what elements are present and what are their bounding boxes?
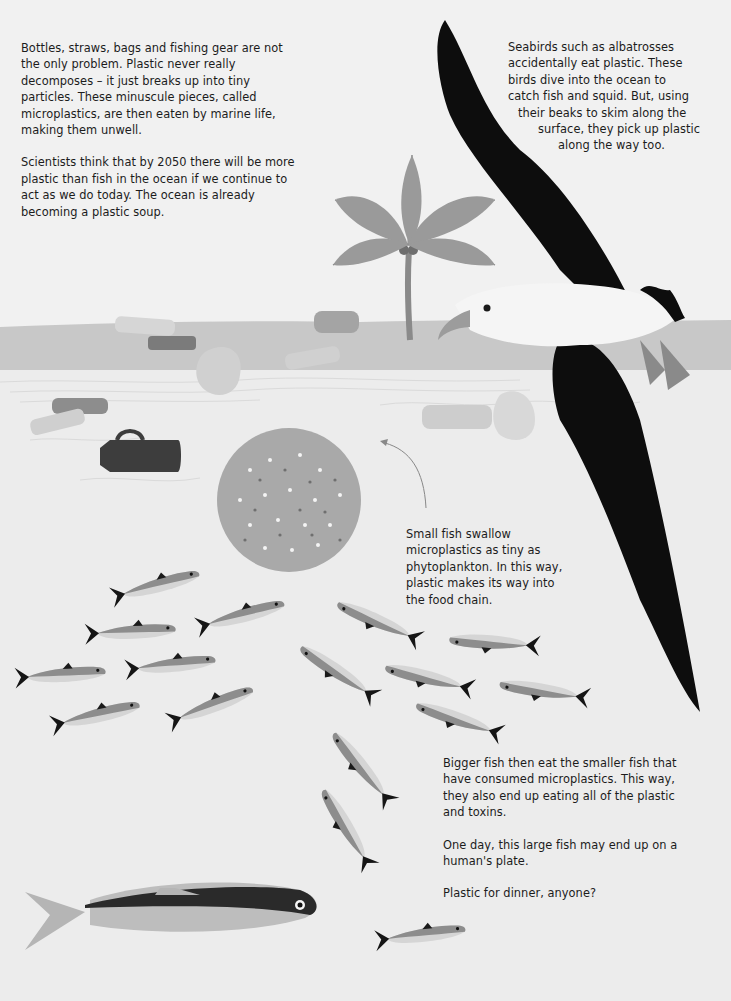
bigger-fish-paragraph-1: Bigger fish then eat the smaller fish th… xyxy=(443,755,683,821)
bigger-fish-paragraph-3: Plastic for dinner, anyone? xyxy=(443,885,683,901)
intro-text: Bottles, straws, bags and fishing gear a… xyxy=(21,40,301,236)
microplastics-circle xyxy=(217,428,361,572)
seabirds-line-7: along the way too. xyxy=(485,137,711,153)
bigger-fish-text: Bigger fish then eat the smaller fish th… xyxy=(443,755,683,918)
seabirds-text: Seabirds such as albatrosses accidentall… xyxy=(485,39,711,154)
bigger-fish-paragraph-2: One day, this large fish may end up on a… xyxy=(443,837,683,870)
seabirds-line-2: accidentally eat plastic. These xyxy=(485,55,711,71)
small-fish-text: Small fish swallow microplastics as tiny… xyxy=(406,526,566,608)
seabirds-line-1: Seabirds such as albatrosses xyxy=(485,39,711,55)
intro-paragraph-1: Bottles, straws, bags and fishing gear a… xyxy=(21,40,301,138)
seabirds-line-4: catch fish and squid. But, using xyxy=(485,88,711,104)
seabirds-line-6: surface, they pick up plastic xyxy=(485,121,711,137)
seabirds-line-3: birds dive into the ocean to xyxy=(485,72,711,88)
intro-paragraph-2: Scientists think that by 2050 there will… xyxy=(21,154,301,220)
seabirds-line-5: their beaks to skim along the xyxy=(485,105,711,121)
